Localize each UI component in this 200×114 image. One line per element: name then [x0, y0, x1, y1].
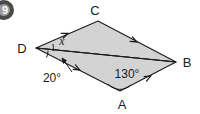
geometry-question-figure: 9 C D B A	[0, 0, 200, 114]
vertex-label-d: D	[17, 41, 26, 56]
angle-label-130: 130°	[115, 67, 140, 81]
vertex-label-a: A	[118, 97, 127, 112]
parallelogram-diagram: 9 C D B A	[0, 0, 200, 114]
question-number-badge: 9	[0, 0, 14, 20]
angle-label-x: x	[58, 34, 65, 48]
vertex-label-c: C	[90, 3, 99, 18]
vertex-label-b: B	[183, 55, 192, 70]
angle-label-20: 20°	[43, 71, 61, 85]
question-number-text: 9	[2, 4, 8, 16]
